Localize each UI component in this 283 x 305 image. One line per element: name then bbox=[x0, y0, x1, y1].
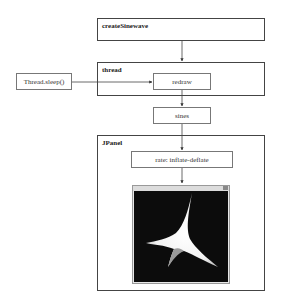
node-thread-label: thread bbox=[102, 66, 122, 74]
node-sines-label: sines bbox=[175, 112, 189, 120]
output-canvas bbox=[134, 191, 228, 282]
sinewave-star-shape bbox=[134, 191, 230, 284]
output-window bbox=[132, 185, 230, 284]
node-jpanel-label: JPanel bbox=[102, 139, 122, 147]
node-thread-sleep: Thread.sleep() bbox=[16, 73, 72, 90]
node-sines: sines bbox=[153, 107, 211, 124]
node-thread-sleep-label: Thread.sleep() bbox=[24, 78, 65, 86]
node-redraw: redraw bbox=[153, 73, 211, 90]
node-redraw-label: redraw bbox=[172, 78, 191, 86]
node-rate-label: rate: inflate-deflate bbox=[155, 156, 208, 164]
node-rate: rate: inflate-deflate bbox=[131, 151, 233, 168]
close-icon bbox=[223, 186, 228, 190]
node-create-sinewave: createSinewave bbox=[97, 18, 265, 41]
node-create-sinewave-label: createSinewave bbox=[102, 22, 148, 30]
